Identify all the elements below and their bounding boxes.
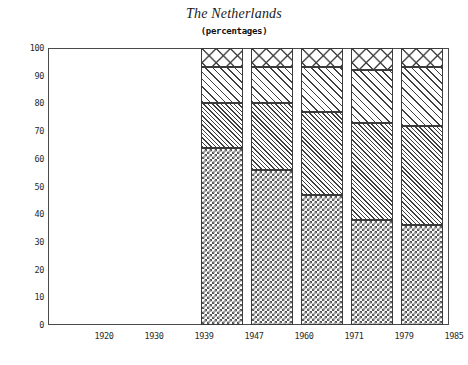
- bar-segment-segment-1-bottom[interactable]: [301, 195, 343, 325]
- y-axis-tick-label: 90: [4, 71, 44, 81]
- y-axis-tick-label: 80: [4, 98, 44, 108]
- bar-segment-segment-3[interactable]: [351, 70, 393, 123]
- bar-segment-segment-4-top[interactable]: [251, 48, 293, 67]
- plot-area: [48, 48, 449, 325]
- chart-figure: The Netherlands (percentages) 1009080706…: [0, 0, 468, 365]
- y-axis: 1009080706050403020100: [0, 0, 44, 365]
- x-axis-tick-label: 1985: [424, 331, 468, 341]
- bar-1947[interactable]: [201, 48, 243, 325]
- y-axis-tick-label: 30: [4, 237, 44, 247]
- bar-segment-segment-3[interactable]: [201, 67, 243, 103]
- bar-segment-segment-2[interactable]: [351, 123, 393, 220]
- bar-segment-segment-1-bottom[interactable]: [251, 170, 293, 325]
- bar-segment-segment-3[interactable]: [401, 67, 443, 125]
- y-axis-tick-label: 10: [4, 292, 44, 302]
- y-axis-tick-label: 0: [4, 320, 44, 330]
- y-axis-tick-label: 100: [4, 43, 44, 53]
- bar-segment-segment-4-top[interactable]: [301, 48, 343, 67]
- bar-segment-segment-3[interactable]: [301, 67, 343, 111]
- bar-segment-segment-1-bottom[interactable]: [351, 220, 393, 325]
- bar-segment-segment-2[interactable]: [301, 112, 343, 195]
- chart-subtitle: (percentages): [0, 26, 468, 36]
- bar-segment-segment-1-bottom[interactable]: [201, 148, 243, 325]
- y-axis-tick-label: 60: [4, 154, 44, 164]
- bar-1971[interactable]: [301, 48, 343, 325]
- y-axis-tick-label: 70: [4, 126, 44, 136]
- bar-segment-segment-3[interactable]: [251, 67, 293, 103]
- bar-segment-segment-4-top[interactable]: [201, 48, 243, 67]
- bar-segment-segment-2[interactable]: [201, 103, 243, 147]
- bar-1979[interactable]: [351, 48, 393, 325]
- y-axis-tick-label: 20: [4, 265, 44, 275]
- bar-segment-segment-4-top[interactable]: [351, 48, 393, 70]
- chart-title: The Netherlands: [0, 6, 468, 22]
- bar-segment-segment-1-bottom[interactable]: [401, 225, 443, 325]
- bar-segment-segment-2[interactable]: [401, 126, 443, 226]
- y-axis-tick-label: 40: [4, 209, 44, 219]
- bar-1960[interactable]: [251, 48, 293, 325]
- bar-1985[interactable]: [401, 48, 443, 325]
- y-axis-tick-label: 50: [4, 182, 44, 192]
- bar-segment-segment-4-top[interactable]: [401, 48, 443, 67]
- bar-segment-segment-2[interactable]: [251, 103, 293, 169]
